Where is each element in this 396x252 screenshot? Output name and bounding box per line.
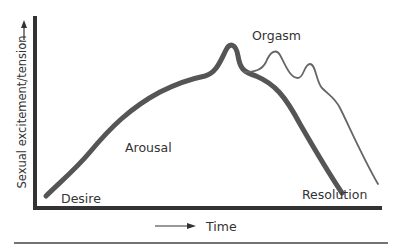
- desire-label: Desire: [61, 191, 101, 206]
- resolution-label: Resolution: [302, 187, 367, 202]
- y-axis-arrow-icon: [21, 20, 27, 28]
- response-cycle-diagram: Sexual excitement/tension Desire Arousal…: [0, 0, 396, 252]
- y-axis-label: Sexual excitement/tension: [15, 35, 29, 188]
- time-arrow-icon: [187, 223, 196, 229]
- multiple-response-curve: [244, 51, 378, 184]
- single-response-curve: [46, 45, 342, 196]
- x-axis-label: Time: [205, 219, 237, 234]
- arousal-label: Arousal: [125, 140, 172, 155]
- orgasm-label: Orgasm: [252, 28, 301, 43]
